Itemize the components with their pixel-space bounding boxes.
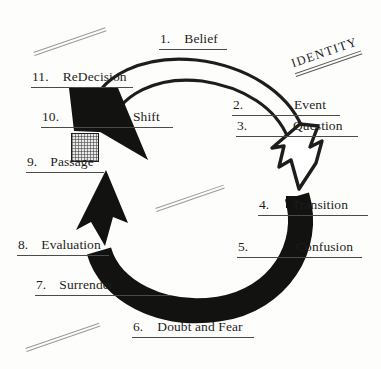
step-rule-2	[232, 115, 340, 116]
step-number-5: 5.	[238, 240, 248, 254]
step-label-8: 8. Evaluation	[18, 238, 101, 252]
step-number-10: 10.	[42, 110, 59, 124]
step-text-wrap-10: Shift	[133, 110, 160, 124]
step-rule-6	[132, 337, 254, 338]
step-label-11: 11. ReDecision	[32, 70, 127, 84]
step-label-1: 1. Belief	[160, 32, 218, 46]
step-label-6: 6. Doubt and Fear	[133, 320, 243, 334]
step-rule-8	[17, 255, 109, 256]
step-number-wrap-2: 2.	[233, 98, 243, 112]
step-text-wrap-5: Confusion	[296, 240, 353, 254]
cycle-diagram: IDENTITY 1. Belief 11. ReDecision 2. Eve…	[0, 0, 381, 369]
step-text-5: Confusion	[296, 239, 353, 254]
step-number-wrap-3: 3.	[237, 119, 247, 133]
step-text-2: Event	[294, 97, 326, 112]
step-number-wrap-5: 5.	[238, 240, 248, 254]
step-text-10: Shift	[133, 109, 160, 124]
step-label-9: 9. Passage	[27, 155, 94, 169]
step-rule-5	[237, 257, 362, 258]
step-number-8: 8.	[18, 238, 28, 252]
step-number-wrap-10: 10.	[42, 110, 59, 124]
step-text-11: ReDecision	[63, 69, 127, 84]
step-text-wrap-2: Event	[294, 98, 326, 112]
step-number-6: 6.	[133, 320, 143, 334]
step-rule-3	[236, 136, 358, 137]
step-number-7: 7.	[36, 278, 46, 292]
step-number-2: 2.	[233, 98, 243, 112]
step-rule-11	[31, 87, 133, 88]
step-label-7: 7. Surrender	[36, 278, 113, 292]
step-rule-1	[159, 49, 227, 50]
step-number-1: 1.	[160, 32, 170, 46]
step-text-4: Transition	[292, 197, 348, 212]
step-rule-4	[258, 215, 368, 216]
step-text-7: Surrender	[59, 277, 113, 292]
step-text-9: Passage	[50, 154, 93, 169]
step-number-3: 3.	[237, 119, 247, 133]
thick-black-arc	[99, 196, 301, 311]
step-text-1: Belief	[184, 31, 218, 46]
step-text-6: Doubt and Fear	[157, 319, 242, 334]
step-text-8: Evaluation	[41, 237, 100, 252]
step-text-wrap-3: Question	[293, 119, 343, 133]
step-number-wrap-4: 4.	[259, 198, 269, 212]
step-number-9: 9.	[27, 155, 37, 169]
step-number-4: 4.	[259, 198, 269, 212]
open-arrowhead	[272, 124, 322, 189]
black-arrowhead-up	[76, 170, 128, 246]
step-text-wrap-4: Transition	[292, 198, 348, 212]
step-rule-9	[26, 172, 104, 173]
step-rule-7	[35, 295, 171, 296]
step-number-11: 11.	[32, 70, 49, 84]
step-text-3: Question	[293, 118, 343, 133]
step-rule-10	[41, 127, 173, 128]
